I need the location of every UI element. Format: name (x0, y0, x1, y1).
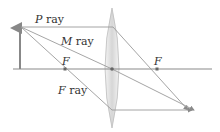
focal-label-right: F (153, 55, 162, 68)
p-ray-label: P ray (34, 13, 65, 26)
lens-center (110, 67, 114, 71)
focal-label-left: F (61, 55, 70, 68)
f-ray-label: F ray (57, 84, 88, 97)
ray-diagram: P ray M ray F F F ray (0, 0, 220, 132)
m-ray-label: M ray (60, 35, 95, 48)
